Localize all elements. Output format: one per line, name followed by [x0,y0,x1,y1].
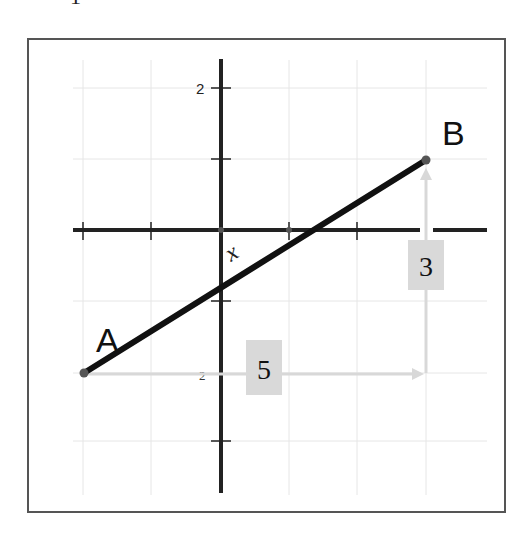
cropped-heading-fragment: 1 [70,0,81,9]
y-tick-label-top: 2 [196,80,204,97]
point-b-label: B [442,114,465,152]
point-a-label: A [96,321,119,359]
point-a-dot [80,369,89,378]
point-b-dot [422,156,431,165]
run-label: 5 [257,354,271,385]
slope-diagram: 1 2 2 [0,0,522,537]
rise-label: 3 [419,251,433,282]
y-axis [211,59,231,493]
